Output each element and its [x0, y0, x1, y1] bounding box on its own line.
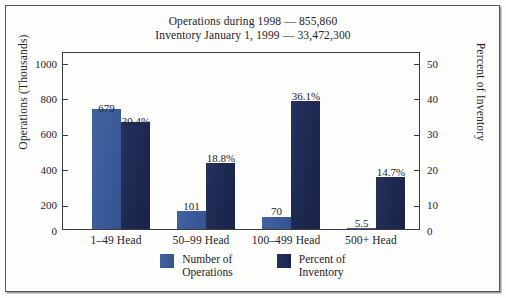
chart-title-block: Operations during 1998 — 855,860 Invento…: [0, 14, 506, 42]
category-label-4: 500+ Head: [311, 234, 431, 246]
left-tick-label-0: 0: [23, 226, 57, 237]
left-axis-title: Operations (Thousands): [17, 3, 29, 181]
bar-percent-1: [121, 122, 150, 230]
bar-label-percent-1: 30.4%: [113, 116, 159, 127]
right-tick-label-10: 10: [427, 200, 461, 211]
right-tick-mark-50: [414, 64, 419, 65]
bar-percent-3: [291, 101, 320, 229]
legend-label-operations-line2: Operations: [182, 266, 232, 279]
right-tick-mark-30: [414, 135, 419, 136]
plot-area: 1000 800 600 400 200 0 50 40 30 20 10 0: [62, 52, 420, 230]
left-tick-mark-800: [63, 99, 68, 100]
bar-percent-2: [206, 163, 235, 230]
left-tick-mark-400: [63, 170, 68, 171]
chart-subtitle-line-2: Inventory January 1, 1999 — 33,472,300: [0, 28, 506, 42]
right-tick-label-0: 0: [427, 226, 461, 237]
legend-label-percent: Percent of Inventory: [299, 253, 346, 278]
left-tick-label-400: 400: [23, 165, 57, 176]
right-tick-mark-40: [414, 99, 419, 100]
right-tick-mark-10: [414, 206, 419, 207]
right-tick-label-30: 30: [427, 129, 461, 140]
bar-operations-2: [177, 211, 206, 229]
legend-swatch-operations-icon: [160, 254, 174, 268]
left-tick-mark-600: [63, 135, 68, 136]
legend-item-operations: Number of Operations: [160, 253, 232, 278]
bar-label-operations-1: 679: [82, 103, 131, 114]
bar-operations-1: [92, 109, 121, 229]
left-tick-label-800: 800: [23, 94, 57, 105]
right-axis-title: Percent of Inventory: [475, 3, 487, 181]
chart-figure: Operations during 1998 — 855,860 Invento…: [0, 0, 506, 298]
right-tick-label-20: 20: [427, 165, 461, 176]
bar-label-percent-2: 18.8%: [198, 153, 244, 164]
legend-item-percent: Percent of Inventory: [277, 253, 346, 278]
left-tick-mark-1000: [63, 64, 68, 65]
left-tick-label-600: 600: [23, 129, 57, 140]
left-tick-label-200: 200: [23, 200, 57, 211]
right-tick-label-40: 40: [427, 94, 461, 105]
legend-label-operations: Number of Operations: [182, 253, 232, 278]
right-tick-label-50: 50: [427, 59, 461, 70]
legend-label-percent-line1: Percent of: [299, 253, 346, 266]
legend-label-percent-line2: Inventory: [299, 266, 346, 279]
legend-swatch-percent-icon: [277, 254, 291, 268]
legend-label-operations-line1: Number of: [182, 253, 232, 266]
bar-label-percent-4: 14.7%: [368, 167, 414, 178]
left-tick-label-1000: 1000: [23, 59, 57, 70]
left-tick-mark-200: [63, 206, 68, 207]
right-tick-mark-20: [414, 170, 419, 171]
bar-label-percent-3: 36.1%: [283, 91, 329, 102]
bar-percent-4: [376, 177, 405, 229]
chart-legend: Number of Operations Percent of Inventor…: [0, 253, 506, 278]
chart-subtitle-line-1: Operations during 1998 — 855,860: [0, 14, 506, 28]
bar-operations-3: [262, 217, 291, 229]
